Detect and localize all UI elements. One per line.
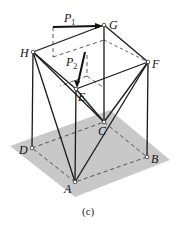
label-G: G [109,19,118,31]
ground-plane [10,110,170,197]
label-P2: P2 [66,56,77,71]
label-E: E [78,91,85,103]
label-D: D [19,144,28,156]
label-H: H [20,47,29,59]
label-C: C [98,125,106,137]
label-F: F [152,58,159,70]
truss-diagram [0,0,179,225]
label-B: B [151,153,158,165]
label-P1: P1 [64,12,75,27]
label-A: A [64,183,71,195]
force-P1-arrow [53,23,103,29]
figure-caption: (c) [82,205,94,217]
